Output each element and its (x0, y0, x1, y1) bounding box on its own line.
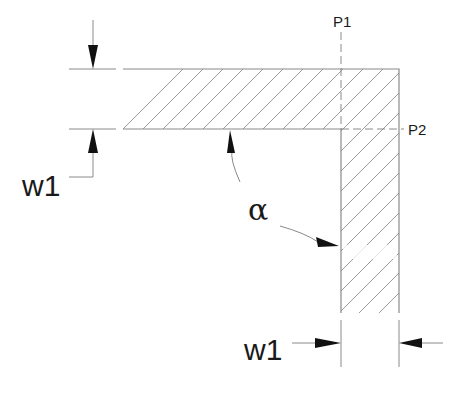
arrow-right-icon (315, 338, 341, 348)
alpha-angle-annotation: α (227, 130, 339, 247)
arrow-left-icon (399, 338, 422, 348)
faded-band (343, 245, 397, 259)
w1-left-label: w1 (21, 169, 60, 202)
alpha-label: α (248, 192, 268, 227)
arrow-right-icon (316, 237, 339, 247)
l-profile-diagram: w1 P1 P2 α w1 (0, 0, 463, 399)
w1-bottom-label: w1 (243, 333, 282, 366)
arrow-up-icon (227, 130, 235, 153)
w1-left-dimension (69, 20, 116, 177)
p2-label: P2 (408, 121, 426, 138)
p1-label: P1 (333, 13, 351, 30)
arrow-up-icon (88, 129, 98, 153)
arrow-down-icon (88, 45, 98, 69)
